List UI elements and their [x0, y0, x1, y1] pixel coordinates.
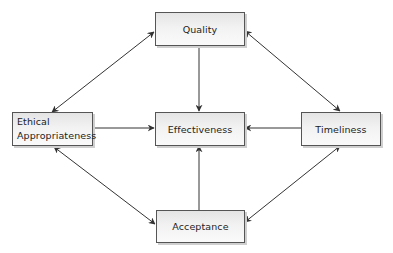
- node-effectiveness: Effectiveness: [155, 112, 245, 146]
- node-acceptance: Acceptance: [156, 210, 245, 243]
- effectiveness-diagram: Quality Ethical Appropriateness Effectiv…: [0, 0, 393, 253]
- node-timeliness: Timeliness: [301, 112, 381, 146]
- node-ethical-label-line2: Appropriateness: [17, 129, 96, 143]
- arrow-timeliness-acceptance: [245, 146, 340, 222]
- node-effectiveness-label: Effectiveness: [168, 124, 233, 135]
- node-ethical-appropriateness: Ethical Appropriateness: [12, 112, 93, 146]
- node-timeliness-label: Timeliness: [315, 124, 366, 135]
- node-ethical-label-line1: Ethical: [17, 115, 96, 129]
- arrow-quality-timeliness: [245, 31, 340, 111]
- node-acceptance-label: Acceptance: [172, 221, 228, 232]
- node-quality: Quality: [155, 12, 245, 46]
- node-quality-label: Quality: [183, 24, 218, 35]
- node-ethical-label: Ethical Appropriateness: [17, 115, 96, 143]
- arrow-ethical-acceptance: [54, 147, 155, 224]
- arrow-quality-ethical: [52, 32, 154, 112]
